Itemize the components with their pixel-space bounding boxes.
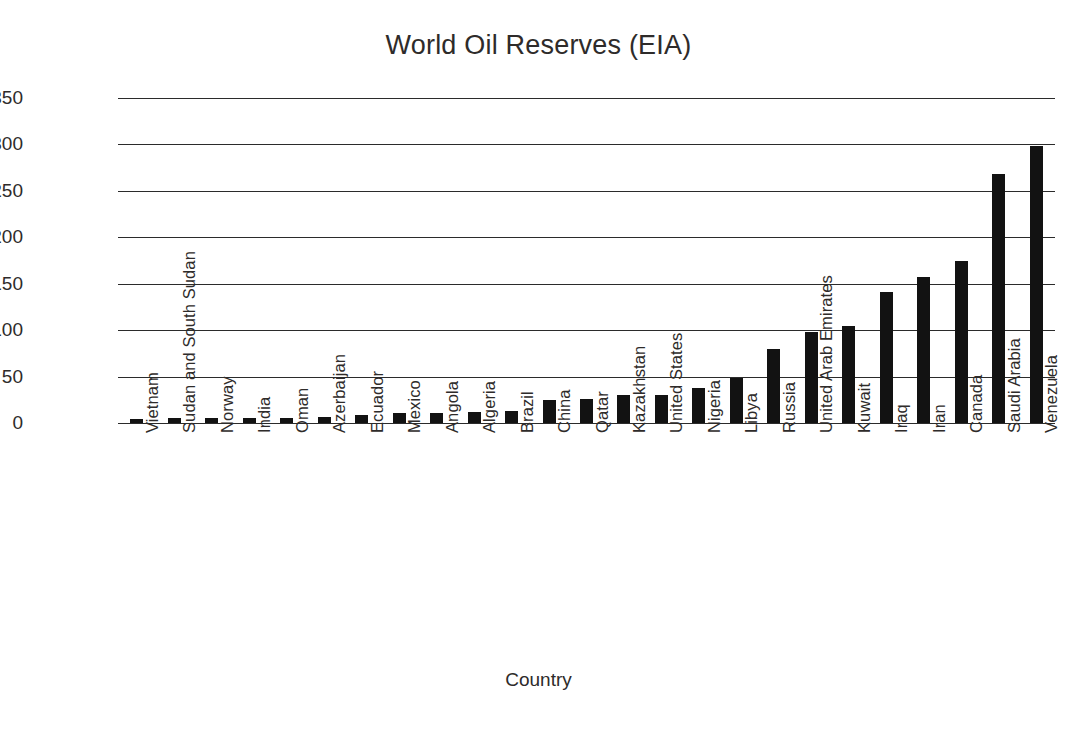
gridline xyxy=(118,237,1055,238)
chart-title: World Oil Reserves (EIA) xyxy=(0,30,1077,61)
bar xyxy=(955,261,968,424)
x-axis-tick-label: United Arab Emirates xyxy=(817,275,836,433)
bar xyxy=(468,412,481,423)
x-axis-tick-label: Libya xyxy=(742,393,761,433)
x-axis-tick-label: United States xyxy=(667,333,686,433)
gridline xyxy=(118,191,1055,192)
x-axis-tick-label: Iran xyxy=(930,404,949,433)
bar xyxy=(318,417,331,424)
bar xyxy=(543,400,556,423)
bar xyxy=(880,292,893,423)
bar xyxy=(280,418,293,423)
x-axis-tick-label: Qatar xyxy=(593,391,612,433)
bar xyxy=(505,411,518,423)
bar xyxy=(992,174,1005,423)
x-axis-tick-label: Algeria xyxy=(480,381,499,433)
y-axis-tick-label: 200 xyxy=(0,227,23,246)
bar xyxy=(393,413,406,423)
bar xyxy=(130,419,143,423)
y-axis-title: Billion Barrels Oi. xyxy=(0,0,4,72)
x-axis-tick-label: Iraq xyxy=(892,404,911,433)
gridline xyxy=(118,144,1055,145)
bar xyxy=(205,418,218,423)
x-axis-tick-label: Ecuador xyxy=(368,371,387,433)
x-axis-tick-label: Brazil xyxy=(518,391,537,433)
bar xyxy=(617,395,630,423)
x-axis-tick-label: Oman xyxy=(293,388,312,433)
bar xyxy=(917,277,930,423)
y-axis-tick-label: 150 xyxy=(0,274,23,293)
bar xyxy=(655,395,668,423)
gridline xyxy=(118,330,1055,331)
bar xyxy=(243,418,256,423)
bar xyxy=(1030,146,1043,423)
y-axis-tick-label: 0 xyxy=(0,413,23,432)
gridline xyxy=(118,284,1055,285)
x-axis-tick-label: Kuwait xyxy=(855,383,874,433)
x-axis-tick-label: Kazakhstan xyxy=(630,346,649,433)
gridline xyxy=(118,377,1055,378)
bar xyxy=(767,349,780,423)
x-axis-tick-label: Mexico xyxy=(405,380,424,433)
bar xyxy=(805,332,818,423)
bar xyxy=(730,378,743,423)
x-axis-tick-label: Norway xyxy=(218,376,237,433)
y-axis-tick-label: 300 xyxy=(0,134,23,153)
bar xyxy=(842,326,855,423)
y-axis-tick-label: 50 xyxy=(0,367,23,386)
bar xyxy=(580,399,593,423)
gridline xyxy=(118,98,1055,99)
x-axis-tick-label: Venezuela xyxy=(1042,355,1061,433)
plot-area: 350300250200150100500 xyxy=(118,98,1055,423)
x-axis-tick-label: Russia xyxy=(780,382,799,433)
x-axis-tick-label: Angola xyxy=(443,381,462,433)
x-axis-tick-label: Canada xyxy=(967,375,986,433)
x-axis-tick-label: Azerbaijan xyxy=(330,354,349,433)
x-axis-tick-label: Saudi Arabia xyxy=(1005,338,1024,433)
x-axis-tick-label: Nigeria xyxy=(705,380,724,433)
x-axis-title: Country xyxy=(0,669,1077,691)
x-axis-tick-label: India xyxy=(255,397,274,433)
x-axis-tick-label: Sudan and South Sudan xyxy=(180,251,199,433)
x-axis-tick-label: Vietnam xyxy=(143,372,162,433)
y-axis-tick-label: 350 xyxy=(0,88,23,107)
y-axis-tick-label: 250 xyxy=(0,181,23,200)
y-axis-tick-label: 100 xyxy=(0,320,23,339)
bar xyxy=(355,415,368,423)
bar xyxy=(430,413,443,423)
bar xyxy=(168,418,181,423)
bar-chart: World Oil Reserves (EIA) Billion Barrels… xyxy=(0,0,1077,729)
x-axis-tick-label: China xyxy=(555,389,574,433)
bar xyxy=(692,388,705,423)
